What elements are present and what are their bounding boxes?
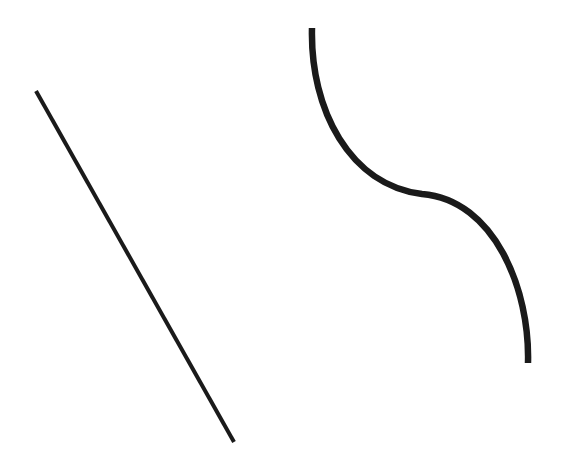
canvas-background xyxy=(0,0,562,465)
drawing-canvas xyxy=(0,0,562,465)
